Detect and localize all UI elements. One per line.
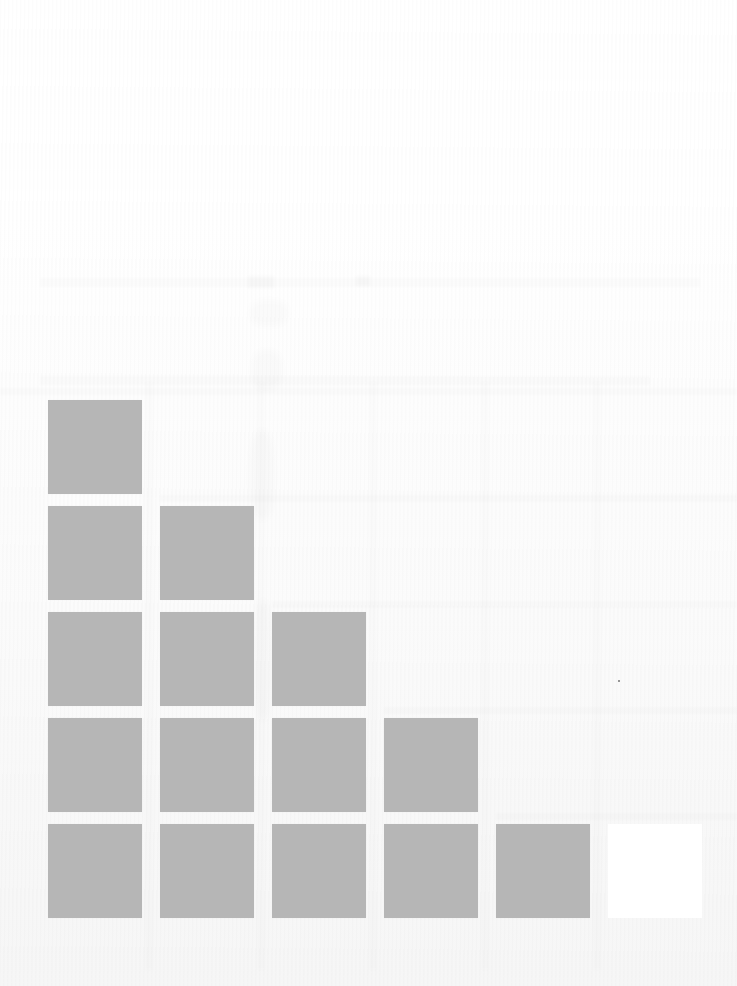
grid-column bbox=[496, 400, 590, 930]
ghost-text-line bbox=[40, 376, 650, 385]
grid-cell bbox=[384, 824, 478, 918]
ghost-header-strip bbox=[40, 276, 700, 394]
grid-cell bbox=[384, 612, 478, 706]
ghost-smudge bbox=[252, 350, 282, 390]
grid-column bbox=[272, 400, 366, 930]
grid-cell bbox=[48, 718, 142, 812]
grid-cell bbox=[48, 612, 142, 706]
grid-cell bbox=[272, 506, 366, 600]
grid-column bbox=[48, 400, 142, 930]
grid-cell bbox=[384, 400, 478, 494]
chart-grid bbox=[48, 400, 702, 930]
grid-cell bbox=[272, 612, 366, 706]
grid-cell bbox=[384, 718, 478, 812]
grid-column bbox=[608, 400, 702, 930]
column-seam bbox=[258, 382, 264, 970]
grid-cell bbox=[48, 400, 142, 494]
grid-cell bbox=[48, 506, 142, 600]
column-seam bbox=[146, 382, 152, 970]
grid-column bbox=[384, 400, 478, 930]
grid-cell bbox=[272, 718, 366, 812]
column-seam bbox=[594, 382, 600, 970]
dust-speck bbox=[618, 680, 620, 682]
grid-cell bbox=[272, 824, 366, 918]
grid-cell bbox=[608, 400, 702, 494]
grid-cell bbox=[384, 506, 478, 600]
grid-cell bbox=[160, 400, 254, 494]
grid-cell bbox=[160, 612, 254, 706]
grid-cell bbox=[608, 824, 702, 918]
grid-cell bbox=[496, 506, 590, 600]
grid-cell bbox=[608, 506, 702, 600]
ghost-text-line bbox=[40, 278, 700, 287]
page-root bbox=[0, 0, 737, 986]
grid-cell bbox=[160, 718, 254, 812]
grid-column bbox=[160, 400, 254, 930]
ghost-smudge bbox=[250, 300, 288, 326]
grid-cell bbox=[272, 400, 366, 494]
grid-cell bbox=[608, 718, 702, 812]
ghost-mark bbox=[248, 276, 274, 288]
ghost-mark bbox=[356, 276, 370, 286]
grid-cell bbox=[496, 612, 590, 706]
grid-cell bbox=[496, 718, 590, 812]
grid-cell bbox=[496, 824, 590, 918]
column-seam bbox=[370, 382, 376, 970]
grid-cell bbox=[160, 824, 254, 918]
ghost-band bbox=[0, 388, 737, 395]
grid-cell bbox=[48, 824, 142, 918]
grid-cell bbox=[496, 400, 590, 494]
grid-cell bbox=[608, 612, 702, 706]
column-seam bbox=[482, 382, 488, 970]
grid-cell bbox=[160, 506, 254, 600]
